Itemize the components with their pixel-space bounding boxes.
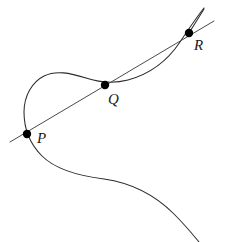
figure-canvas: P Q R	[0, 0, 225, 242]
point-label-q: Q	[108, 91, 119, 107]
elliptic-curve-figure: P Q R	[0, 0, 225, 242]
point-label-r: R	[193, 37, 203, 53]
point-dot-q	[101, 81, 109, 89]
point-dot-r	[185, 29, 193, 37]
point-dot-p	[23, 130, 31, 138]
point-label-p: P	[36, 130, 46, 146]
